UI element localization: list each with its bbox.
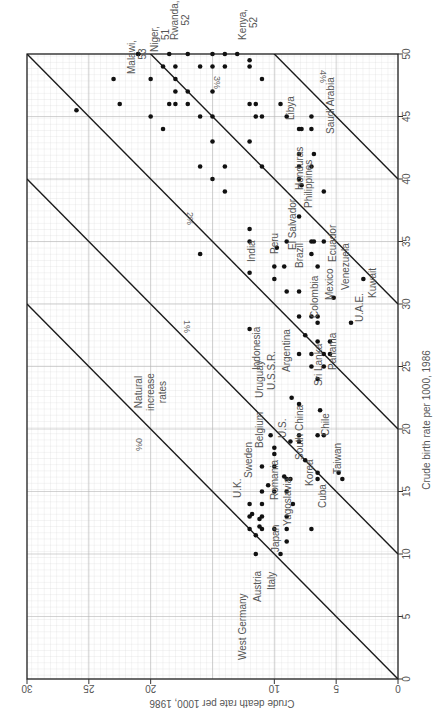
y-tick-label: 0 <box>395 683 401 694</box>
country-label: Chile <box>320 413 331 436</box>
plot-area: 0%1%2%3%4%Naturalincreaserates0510152025… <box>21 0 432 709</box>
data-point <box>167 102 172 107</box>
data-point <box>282 264 287 269</box>
country-label: Mexico <box>324 268 335 300</box>
rate-label: 3% <box>212 76 222 89</box>
country-label: Saudi Arabia <box>325 77 336 134</box>
data-point <box>297 314 302 319</box>
data-point <box>185 52 190 57</box>
country-label: Korea <box>304 459 315 486</box>
data-point <box>299 127 304 132</box>
data-point <box>210 64 215 69</box>
data-point <box>260 164 265 169</box>
data-point <box>284 527 289 532</box>
country-label: Kenya,52 <box>237 9 259 40</box>
data-point <box>247 102 252 107</box>
data-point <box>247 270 252 275</box>
country-label: Austria <box>252 570 263 602</box>
data-point <box>322 239 327 244</box>
data-point <box>247 139 252 144</box>
data-point <box>272 445 277 450</box>
data-point <box>272 277 277 282</box>
data-point <box>185 89 190 94</box>
data-point <box>250 512 255 517</box>
data-point <box>278 102 283 107</box>
data-point <box>284 289 289 294</box>
country-label: Rwanda,52 <box>169 1 191 40</box>
data-point <box>173 64 178 69</box>
x-tick-label: 30 <box>401 298 412 310</box>
data-point <box>210 52 215 57</box>
rate-label: 2% <box>185 212 195 225</box>
country-label: West Germany <box>237 594 248 661</box>
country-label: Venezuela <box>340 243 351 290</box>
country-label: El Salvador <box>287 198 298 250</box>
data-point <box>148 114 153 119</box>
x-tick-label: 20 <box>401 423 412 435</box>
y-tick-label: 30 <box>21 683 33 694</box>
data-point <box>247 527 252 532</box>
data-point <box>284 539 289 544</box>
country-label: U.S. <box>277 419 288 438</box>
data-point <box>257 517 262 522</box>
data-point <box>315 477 320 482</box>
data-point <box>148 77 153 82</box>
data-point <box>297 352 302 357</box>
svg-text:Natural: Natural <box>133 376 144 408</box>
svg-text:increase: increase <box>145 373 156 411</box>
country-label: Colombia <box>309 275 320 318</box>
country-label: Indonesia <box>251 326 262 370</box>
data-point <box>210 114 215 119</box>
data-point <box>253 102 258 107</box>
data-point <box>173 89 178 94</box>
x-tick-label: 0 <box>401 676 412 682</box>
data-point <box>161 64 166 69</box>
y-tick-label: 20 <box>145 683 157 694</box>
data-point <box>309 127 314 132</box>
country-label: Italy <box>266 572 277 590</box>
data-point <box>198 252 203 257</box>
data-point <box>173 77 178 82</box>
data-point <box>309 114 314 119</box>
data-point <box>235 52 240 57</box>
country-label: Peru <box>269 233 280 254</box>
x-axis-title: Crude birth rate per 1000, 1986 <box>421 350 432 490</box>
country-label: Taiwan <box>332 443 343 474</box>
data-point <box>74 108 79 113</box>
data-point <box>312 239 317 244</box>
y-tick-label: 5 <box>333 683 339 694</box>
country-label: Sri Lanka <box>313 343 324 386</box>
data-point <box>289 395 294 400</box>
data-point <box>253 552 258 557</box>
data-point <box>297 289 302 294</box>
data-point <box>223 64 228 69</box>
data-point <box>198 164 203 169</box>
country-label: South China <box>294 405 305 460</box>
y-tick-label: 10 <box>268 683 280 694</box>
data-point <box>322 189 327 194</box>
country-label: India <box>246 240 257 262</box>
data-point <box>161 127 166 132</box>
data-point <box>272 264 277 269</box>
rate-label: 1% <box>182 320 192 333</box>
scatter-chart: 0%1%2%3%4%Naturalincreaserates0510152025… <box>0 0 445 724</box>
country-label: Belgium <box>254 412 265 448</box>
data-point <box>268 433 273 438</box>
country-label: U.A.E. <box>354 293 365 322</box>
x-tick-label: 45 <box>401 111 412 123</box>
data-point <box>210 89 215 94</box>
data-point <box>247 58 252 63</box>
data-point <box>198 114 203 119</box>
data-point <box>309 527 314 532</box>
data-point <box>340 477 345 482</box>
data-point <box>253 114 258 119</box>
data-point <box>117 102 122 107</box>
x-tick-label: 5 <box>401 613 412 619</box>
country-label: Cuba <box>317 484 328 508</box>
country-label: Argentina <box>281 329 292 372</box>
data-point <box>223 164 228 169</box>
data-point <box>309 252 314 257</box>
country-label: Ecuador <box>327 224 338 262</box>
y-axis-title: Crude death rate per 1000, 1986 <box>149 698 295 709</box>
data-point <box>272 452 277 457</box>
